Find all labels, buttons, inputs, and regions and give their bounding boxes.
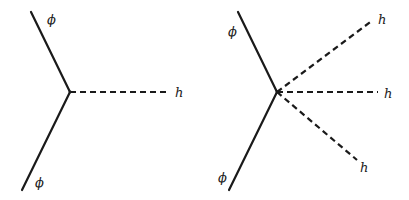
phi-label: ϕ <box>218 170 227 185</box>
higgs-propagator-line <box>277 20 373 92</box>
scalar-phi-line <box>229 92 277 190</box>
five-point-vertex-diagram: ϕϕhhh <box>218 12 392 190</box>
scalar-phi-line <box>238 12 277 92</box>
feynman-diagrams: ϕϕhϕϕhhh <box>22 12 392 190</box>
phi-label: ϕ <box>35 175 44 190</box>
phi-label: ϕ <box>47 12 56 27</box>
higgs-propagator-line <box>277 92 357 160</box>
higgs-label: h <box>378 12 386 27</box>
higgs-label: h <box>360 160 368 175</box>
higgs-label: h <box>384 86 392 101</box>
higgs-label: h <box>175 85 183 100</box>
scalar-phi-line <box>22 92 70 190</box>
interaction-vertex <box>69 91 72 94</box>
phi-label: ϕ <box>228 24 237 39</box>
feynman-diagrams-canvas: ϕϕhϕϕhhh <box>0 0 409 200</box>
interaction-vertex <box>276 91 279 94</box>
three-point-vertex-diagram: ϕϕh <box>22 12 183 190</box>
